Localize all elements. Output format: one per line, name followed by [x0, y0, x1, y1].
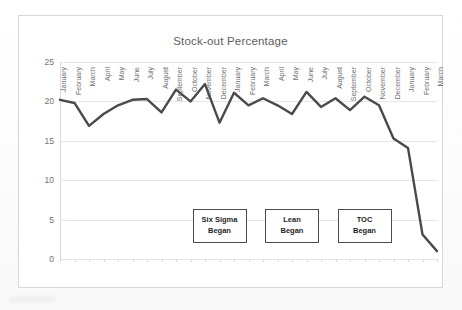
y-axis-label: 15	[45, 136, 54, 146]
x-axis-label: March	[437, 67, 444, 86]
x-axis-tickmark	[263, 259, 264, 262]
annotation-label-line1: Six Sigma	[202, 215, 238, 226]
x-axis-tickmark	[191, 259, 192, 262]
x-axis-tickmark	[307, 259, 308, 262]
chart-frame: Stock-out Percentage 0510152025 JanuaryF…	[18, 15, 443, 288]
annotation-box: TOCBegan	[338, 209, 392, 243]
annotation-label-line2: Began	[208, 226, 231, 237]
y-axis-label: 25	[45, 57, 54, 67]
x-axis-tickmark	[249, 259, 250, 262]
y-axis-label: 10	[45, 175, 54, 185]
y-axis-label: 0	[49, 254, 54, 264]
x-axis-tickmark	[292, 259, 293, 262]
x-axis-tickmark	[336, 259, 337, 262]
y-axis-label: 5	[49, 215, 54, 225]
x-axis-tickmark	[408, 259, 409, 262]
annotation-label-line1: Lean	[283, 215, 301, 226]
x-axis-tickmark	[437, 259, 438, 262]
x-axis-tickmark	[89, 259, 90, 262]
x-axis-tickmark	[423, 259, 424, 262]
chart-page: Stock-out Percentage 0510152025 JanuaryF…	[0, 0, 462, 310]
annotation-box: LeanBegan	[265, 209, 319, 243]
y-axis-label: 20	[45, 96, 54, 106]
x-axis-tickmark	[162, 259, 163, 262]
scan-artifact	[10, 296, 56, 303]
annotation-label-line1: TOC	[357, 215, 373, 226]
x-axis-tickmark	[147, 259, 148, 262]
chart-title: Stock-out Percentage	[19, 35, 442, 47]
x-axis-tickmark	[234, 259, 235, 262]
annotation-label-line2: Began	[353, 226, 376, 237]
x-axis-tickmark	[104, 259, 105, 262]
x-axis-tickmark	[278, 259, 279, 262]
x-axis-tickmark	[60, 259, 61, 262]
annotation-box: Six SigmaBegan	[193, 209, 247, 243]
x-axis-tickmark	[118, 259, 119, 262]
plot-area: 0510152025 JanuaryFebruaryMarchAprilMayJ…	[60, 62, 437, 259]
x-axis-tickmark	[133, 259, 134, 262]
x-axis-tickmark	[394, 259, 395, 262]
x-axis-tickmark	[379, 259, 380, 262]
annotation-label-line2: Began	[281, 226, 304, 237]
x-axis-tickmark	[205, 259, 206, 262]
x-axis-tickmark	[75, 259, 76, 262]
x-axis-tickmark	[321, 259, 322, 262]
x-axis-tickmark	[176, 259, 177, 262]
x-axis-tickmark	[350, 259, 351, 262]
x-axis-tickmark	[220, 259, 221, 262]
x-axis-tickmark	[365, 259, 366, 262]
